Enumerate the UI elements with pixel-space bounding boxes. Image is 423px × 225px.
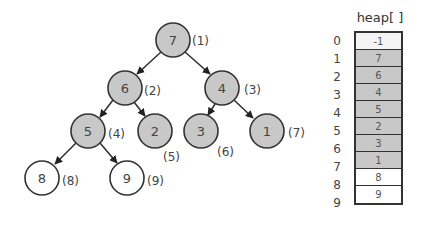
heap-cell: 7 (356, 50, 401, 67)
edge-2-4 (100, 100, 113, 117)
heap-index: 3 (330, 88, 344, 102)
node-index: (3) (244, 83, 261, 97)
heap-cell: 6 (356, 67, 401, 84)
node-index: (6) (217, 145, 234, 159)
heap-index: 1 (330, 52, 344, 66)
tree-node-1: 7 (1) (156, 23, 209, 57)
node-index: (2) (144, 84, 161, 98)
heap-index: 8 (330, 178, 344, 192)
node-value: 4 (218, 81, 226, 96)
node-index: (4) (108, 127, 125, 141)
tree-node-9: 9 (9) (110, 161, 164, 195)
node-value: 5 (84, 124, 92, 139)
node-index: (8) (62, 174, 79, 188)
heap-index: 9 (330, 196, 344, 210)
edge-3-6 (208, 104, 215, 115)
node-index: (1) (192, 34, 209, 48)
heap-cell: 8 (356, 169, 401, 186)
heap-array: -1 7 6 4 5 2 3 1 8 9 (354, 31, 403, 205)
edge-1-2 (137, 52, 161, 74)
node-value: 2 (151, 124, 159, 139)
heap-cell: 2 (356, 118, 401, 135)
tree-node-8: 8 (8) (25, 161, 79, 195)
edge-1-3 (185, 52, 210, 74)
heap-cell: 5 (356, 101, 401, 118)
heap-array-title: heap[ ] (355, 10, 405, 25)
edge-4-9 (100, 143, 117, 163)
heap-cell: 4 (356, 84, 401, 101)
tree-node-5: 2 (5) (138, 114, 180, 164)
node-index: (5) (163, 150, 180, 164)
node-value: 6 (121, 81, 129, 96)
tree-node-3: 4 (3) (205, 71, 261, 105)
tree-node-4: 5 (4) (71, 114, 125, 148)
node-value: 8 (38, 171, 46, 186)
node-index: (9) (147, 174, 164, 188)
heap-index: 5 (330, 124, 344, 138)
heap-tree: 7 (1) 6 (2) 4 (3) 5 (4) 2 (5) 3 (6) 1 (7… (0, 0, 330, 225)
heap-index: 6 (330, 142, 344, 156)
heap-cell: 1 (356, 152, 401, 169)
edge-4-8 (55, 143, 76, 164)
heap-cell: 3 (356, 135, 401, 152)
heap-index: 0 (330, 34, 344, 48)
node-value: 1 (263, 124, 271, 139)
heap-cell: 9 (356, 186, 401, 203)
node-value: 9 (123, 171, 131, 186)
tree-node-6: 3 (6) (184, 114, 234, 159)
edge-2-5 (134, 102, 145, 116)
tree-node-2: 6 (2) (108, 71, 161, 105)
edge-3-7 (234, 100, 253, 118)
tree-node-7: 1 (7) (250, 114, 305, 148)
node-index: (7) (288, 126, 305, 140)
node-value: 3 (197, 124, 205, 139)
heap-cell: -1 (356, 33, 401, 50)
heap-index: 4 (330, 106, 344, 120)
heap-index: 2 (330, 70, 344, 84)
heap-index: 7 (330, 160, 344, 174)
node-value: 7 (169, 33, 177, 48)
